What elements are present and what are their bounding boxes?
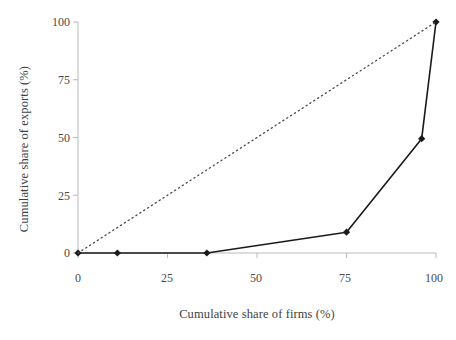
data-point-marker (203, 249, 210, 256)
plot-area (0, 0, 456, 340)
lorenz-curve-chart: Cumulative share of exports (%) Cumulati… (0, 0, 456, 340)
series-line-1 (78, 22, 436, 253)
data-series (74, 18, 439, 256)
data-point-marker (114, 249, 121, 256)
axis-ticks (73, 22, 436, 258)
data-point-marker (432, 18, 439, 25)
